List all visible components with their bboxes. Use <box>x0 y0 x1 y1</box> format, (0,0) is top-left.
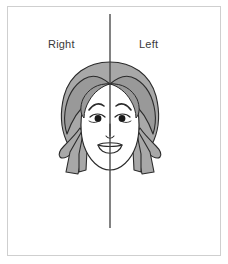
face-symmetry-figure <box>0 0 228 264</box>
page-root: Right Left <box>0 0 228 264</box>
